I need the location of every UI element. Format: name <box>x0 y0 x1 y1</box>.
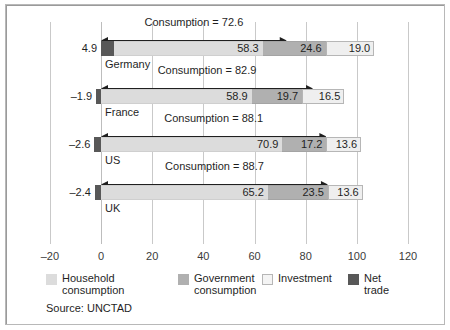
chart-figure: 4.9GermanyConsumption = 72.658.324.619.0… <box>0 0 450 330</box>
legend-swatch-investment-icon <box>262 274 273 285</box>
legend-swatch-government-icon <box>178 274 189 285</box>
legend-label-investment: Investment <box>278 272 332 284</box>
source-note: Source: UNCTAD <box>46 302 132 314</box>
legend-label-household: Household consumption <box>62 272 124 296</box>
legend-swatch-nettrade-icon <box>348 274 359 285</box>
legend-swatch-household-icon <box>46 274 57 285</box>
legend-label-nettrade: Net trade <box>364 272 389 296</box>
chart-legend: Household consumptionGovernment consumpt… <box>0 0 450 330</box>
legend-label-government: Government consumption <box>194 272 256 296</box>
